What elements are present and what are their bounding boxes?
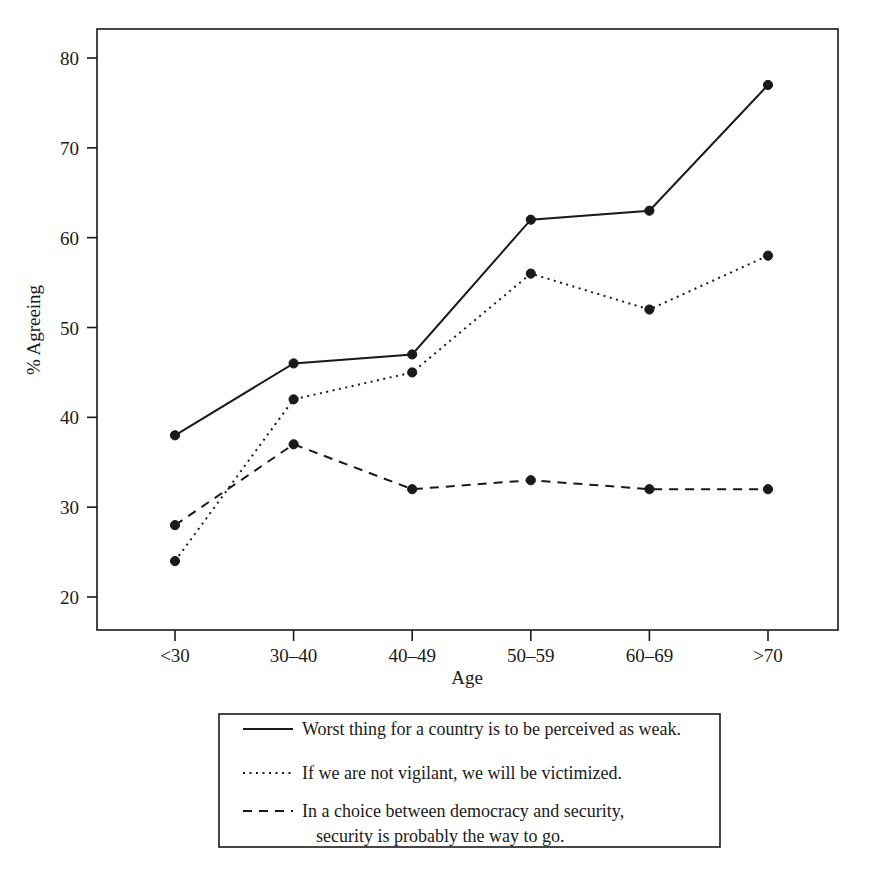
y-axis-title: % Agreeing (23, 284, 44, 375)
x-tick-label: 60–69 (626, 645, 674, 666)
data-point (289, 440, 298, 449)
legend-label: In a choice between democracy and securi… (302, 801, 624, 821)
data-point (763, 251, 772, 260)
x-tick-label: 30–40 (270, 645, 318, 666)
y-tick-label: 80 (60, 48, 79, 69)
data-point (645, 206, 654, 215)
legend-label-continued: security is probably the way to go. (316, 826, 564, 846)
data-point (408, 368, 417, 377)
x-tick-label: <30 (160, 645, 190, 666)
y-tick-label: 30 (60, 497, 79, 518)
x-axis: <3030–4040–4950–5960–69>70 (160, 630, 783, 666)
y-tick-label: 60 (60, 228, 79, 249)
data-point (645, 485, 654, 494)
data-point (170, 556, 179, 565)
data-point (170, 521, 179, 530)
series-line-3 (175, 444, 768, 525)
data-point (408, 350, 417, 359)
data-point (408, 485, 417, 494)
series-line-2 (175, 256, 768, 561)
legend-group: Worst thing for a country is to be perce… (243, 719, 681, 846)
y-tick-label: 20 (60, 587, 79, 608)
chart-figure: 20304050607080 <3030–4040–4950–5960–69>7… (0, 0, 869, 885)
data-point (170, 431, 179, 440)
data-point (763, 485, 772, 494)
plot-frame (97, 29, 838, 630)
x-tick-label: 50–59 (507, 645, 555, 666)
y-tick-label: 40 (60, 407, 79, 428)
legend-label: If we are not vigilant, we will be victi… (302, 763, 622, 783)
y-axis: 20304050607080 (60, 48, 97, 608)
x-tick-label: >70 (753, 645, 783, 666)
data-point (289, 359, 298, 368)
y-tick-label: 70 (60, 138, 79, 159)
legend-label: Worst thing for a country is to be perce… (302, 719, 681, 739)
data-point (645, 305, 654, 314)
y-tick-label: 50 (60, 318, 79, 339)
series-line-1 (175, 85, 768, 435)
line-chart: 20304050607080 <3030–4040–4950–5960–69>7… (0, 0, 869, 885)
x-tick-label: 40–49 (388, 645, 436, 666)
data-point (289, 395, 298, 404)
x-axis-title: Age (451, 667, 483, 688)
series-group (170, 80, 772, 565)
data-point (526, 269, 535, 278)
data-point (763, 80, 772, 89)
data-point (526, 476, 535, 485)
data-point (526, 215, 535, 224)
